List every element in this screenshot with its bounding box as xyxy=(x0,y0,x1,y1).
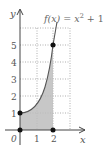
x-tick-0: 0 xyxy=(11,134,17,144)
y-tick-2: 2 xyxy=(11,92,17,102)
y-tick-1: 1 xyxy=(11,109,17,119)
y-axis-label: y xyxy=(9,8,16,19)
y-tick-4: 4 xyxy=(11,58,17,68)
x-tick-2: 2 xyxy=(51,134,57,144)
y-tick-3: 3 xyxy=(11,75,17,85)
x-axis-label: x xyxy=(80,134,86,145)
x-tick-1: 1 xyxy=(34,134,40,144)
function-graph: y x 5 4 3 2 1 0 1 2 f(x) = x2 + 1 xyxy=(0,0,103,151)
shaded-area xyxy=(20,45,53,130)
function-label: f(x) = x2 + 1 xyxy=(43,12,103,24)
y-tick-5: 5 xyxy=(11,41,17,51)
